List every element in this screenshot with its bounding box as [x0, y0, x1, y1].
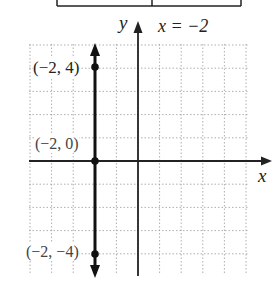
table-fragment [57, 0, 241, 6]
line-up-arrow-icon [90, 43, 100, 56]
point-label-neg2-0: (−2, 0) [35, 135, 79, 153]
line-down-arrow-icon [90, 265, 100, 278]
point-neg2-neg4 [91, 250, 99, 258]
x-axis-label: x [258, 165, 266, 187]
point-neg2-4 [91, 63, 99, 71]
y-axis-label: y [119, 12, 127, 34]
y-axis [134, 21, 143, 276]
point-neg2-0 [91, 157, 99, 165]
point-label-neg2-4: (−2, 4) [33, 58, 79, 78]
y-axis-arrow-icon [134, 21, 143, 33]
equation-label: x = −2 [158, 16, 208, 37]
x-axis [29, 157, 272, 166]
point-label-neg2-neg4: (−2, −4) [26, 243, 79, 261]
